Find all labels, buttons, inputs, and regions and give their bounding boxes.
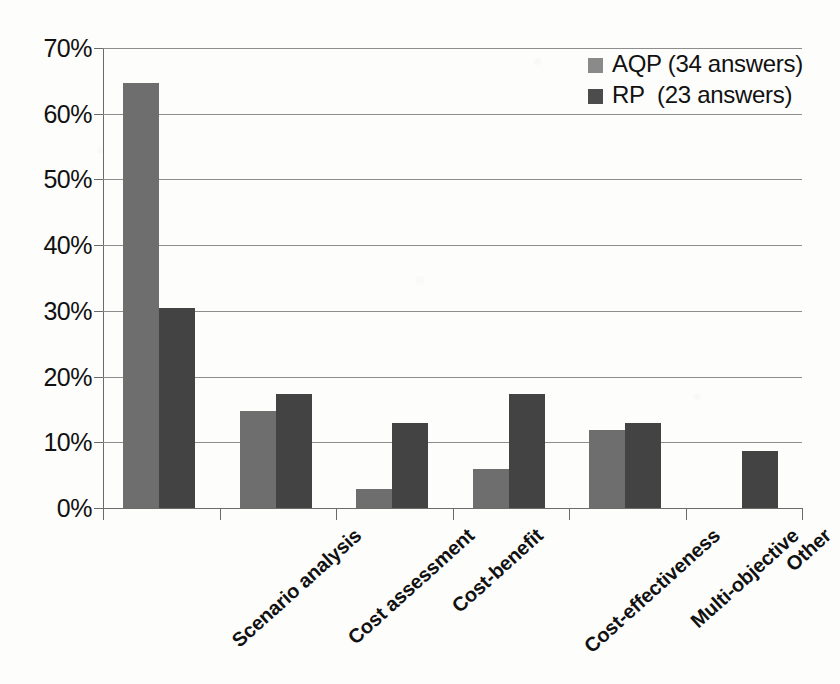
gridline-10: [103, 442, 802, 443]
y-tick-mark: [94, 508, 103, 509]
y-tick-label: 60%: [14, 99, 92, 128]
bar-rp-4: [625, 423, 661, 508]
gridline-50: [103, 179, 802, 180]
y-tick-label: 50%: [14, 165, 92, 194]
bar-rp-5: [742, 451, 778, 508]
x-axis-separator: [336, 509, 337, 520]
bar-aqp-4: [589, 430, 625, 508]
legend-item-aqp: AQP (34 answers): [588, 50, 803, 78]
x-axis-label-cost-effectiveness: Cost-effectiveness: [580, 524, 725, 658]
bar-aqp-1: [240, 411, 276, 508]
y-tick-label: 40%: [14, 231, 92, 260]
bar-aqp-0: [123, 83, 159, 508]
chart-legend: AQP (34 answers)RP (23 answers): [588, 50, 803, 109]
y-tick-label: 70%: [14, 34, 92, 63]
y-tick-mark: [94, 442, 103, 443]
gridline-30: [103, 311, 802, 312]
y-tick-label: 0%: [14, 494, 92, 523]
x-axis-separator: [453, 509, 454, 520]
bar-rp-0: [159, 308, 195, 508]
y-axis-labels: 70%60%50%40%30%20%10%0%: [0, 0, 92, 684]
y-tick-label: 10%: [14, 428, 92, 457]
y-tick-label: 30%: [14, 296, 92, 325]
gridline-20: [103, 377, 802, 378]
y-tick-mark: [94, 311, 103, 312]
y-tick-label: 20%: [14, 362, 92, 391]
gridline-40: [103, 245, 802, 246]
bar-rp-3: [509, 394, 545, 508]
x-axis-separator: [569, 509, 570, 520]
gridline-70: [103, 48, 802, 49]
y-tick-mark: [94, 48, 103, 49]
legend-swatch-aqp-icon: [588, 58, 603, 73]
plot-area: [103, 48, 802, 508]
bar-aqp-3: [473, 469, 509, 508]
bar-rp-2: [392, 423, 428, 508]
gridline-60: [103, 114, 802, 115]
bar-chart: 70%60%50%40%30%20%10%0% Scenario analysi…: [0, 0, 840, 684]
y-tick-mark: [94, 114, 103, 115]
bar-rp-1: [276, 394, 312, 508]
bar-aqp-2: [356, 489, 392, 508]
x-axis-separator: [220, 509, 221, 520]
legend-label: AQP (34 answers): [612, 50, 803, 78]
y-tick-mark: [94, 179, 103, 180]
y-tick-mark: [94, 377, 103, 378]
legend-label: RP (23 answers): [612, 81, 792, 109]
legend-swatch-rp-icon: [588, 89, 603, 104]
legend-item-rp: RP (23 answers): [588, 81, 803, 109]
x-axis-separator: [103, 509, 104, 520]
x-axis-separator: [686, 509, 687, 520]
y-tick-mark: [94, 245, 103, 246]
x-axis-separator: [802, 509, 803, 520]
